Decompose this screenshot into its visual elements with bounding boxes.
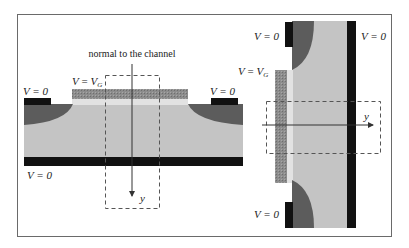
right-gate-label: V = VG: [238, 65, 268, 79]
right-bottom-contact: [285, 202, 293, 228]
left-drain-contact: [211, 98, 238, 105]
mosfet-diagram: normal to the channel V = VG V = 0 V = 0…: [0, 0, 409, 248]
right-bottom-label: V = 0: [254, 208, 279, 220]
left-gate: [72, 89, 188, 99]
left-y-label: y: [139, 192, 145, 204]
right-top-contact: [285, 22, 293, 47]
right-y-label: y: [363, 110, 369, 122]
left-source-contact: [24, 98, 51, 105]
left-source-label: V = 0: [23, 85, 48, 97]
right-body-label: V = 0: [361, 30, 386, 42]
right-gate-oxide: [287, 70, 293, 183]
left-caption: normal to the channel: [89, 48, 176, 59]
right-gate: [275, 70, 287, 183]
right-top-label: V = 0: [254, 30, 279, 42]
right-panel-mosfet: V = VG V = 0 V = 0 V = 0 y: [238, 21, 386, 228]
left-panel-mosfet: normal to the channel V = VG V = 0 V = 0…: [23, 48, 243, 209]
left-body-label: V = 0: [27, 169, 52, 181]
left-gate-oxide: [72, 99, 188, 105]
left-body-contact: [24, 157, 243, 166]
left-gate-label: V = VG: [72, 75, 102, 89]
left-drain-label: V = 0: [210, 85, 235, 97]
